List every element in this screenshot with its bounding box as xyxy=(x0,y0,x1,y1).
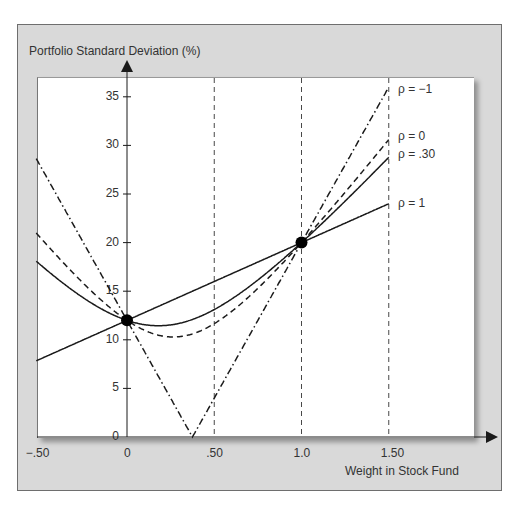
series-line xyxy=(36,204,388,361)
x-axis-arrow-icon xyxy=(486,431,498,443)
y-axis-arrow-icon xyxy=(121,60,133,72)
data-point-marker xyxy=(296,237,308,249)
series-line xyxy=(36,87,388,437)
chart-svg xyxy=(0,0,521,528)
data-point-marker xyxy=(121,314,133,326)
series-line xyxy=(36,140,388,337)
